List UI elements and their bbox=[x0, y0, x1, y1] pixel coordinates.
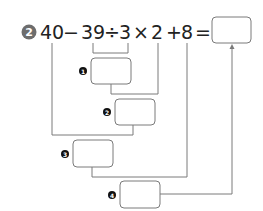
term-39: 39 bbox=[81, 21, 105, 43]
connector-step-4-to-answer bbox=[160, 47, 232, 194]
term-40: 40 bbox=[40, 21, 64, 43]
operator-multiply: × bbox=[133, 21, 149, 43]
step-4-label: 4 bbox=[110, 192, 114, 199]
problem-number-badge: 2 bbox=[22, 25, 37, 40]
step-3-label: 3 bbox=[63, 151, 67, 158]
step-1-label: 1 bbox=[81, 68, 85, 75]
final-answer-box[interactable] bbox=[212, 17, 251, 43]
order-of-operations-diagram: 2 40 − 39 ÷ 3 × 2 + 8 = 1 2 3 4 bbox=[0, 0, 263, 211]
step-2-label: 2 bbox=[105, 109, 109, 116]
equation: 40 − 39 ÷ 3 × 2 + 8 = bbox=[40, 21, 211, 43]
arrow-up-icon bbox=[230, 44, 235, 49]
term-8: 8 bbox=[181, 21, 193, 43]
problem-number: 2 bbox=[25, 26, 33, 39]
term-2: 2 bbox=[151, 21, 163, 43]
step-4-box[interactable] bbox=[120, 181, 160, 208]
step-3-box[interactable] bbox=[73, 140, 113, 167]
term-3: 3 bbox=[119, 21, 131, 43]
bracket-step-1 bbox=[93, 43, 128, 53]
step-1-box[interactable] bbox=[91, 58, 131, 84]
operator-minus: − bbox=[63, 21, 79, 43]
operator-plus: + bbox=[166, 21, 182, 43]
operator-equals: = bbox=[195, 21, 211, 43]
step-2-box[interactable] bbox=[115, 99, 155, 125]
operator-divide: ÷ bbox=[104, 21, 120, 43]
